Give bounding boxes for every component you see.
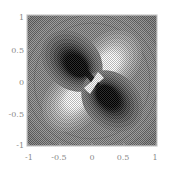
x-tick-label: 1 [152, 153, 157, 162]
y-tick-label: -0.5 [9, 110, 24, 119]
x-tick-label: -0.5 [51, 153, 66, 162]
y-tick-label: 0.5 [11, 46, 24, 55]
dither-texture [27, 15, 157, 146]
x-axis-labels: -1 -0.5 0 0.5 1 [25, 153, 157, 162]
y-tick-label: -1 [16, 141, 24, 150]
y-tick-label: 1 [19, 13, 24, 22]
x-tick-label: 0.5 [117, 153, 130, 162]
plot-area [10, 0, 169, 163]
y-tick-label: 0 [19, 78, 24, 87]
x-tick-label: 0 [89, 153, 94, 162]
y-axis-labels: 1 0.5 0 -0.5 -1 [9, 13, 24, 150]
contour-plot: 1 0.5 0 -0.5 -1 -1 -0.5 0 0.5 1 [0, 0, 169, 173]
x-tick-label: -1 [25, 153, 33, 162]
